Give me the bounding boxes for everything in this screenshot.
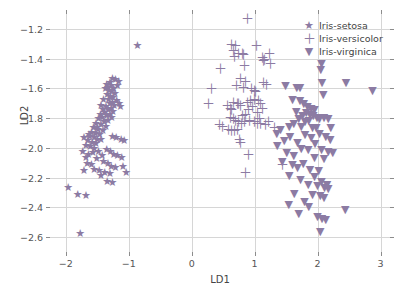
data-point-plus: ＋ bbox=[241, 12, 254, 25]
data-point-triangle-down: ▼ bbox=[272, 128, 280, 139]
data-point-plus: ＋ bbox=[263, 46, 276, 59]
legend-label: Iris-virginica bbox=[319, 46, 377, 57]
data-point-triangle-down: ▼ bbox=[322, 130, 330, 141]
data-point-plus: ＋ bbox=[237, 80, 250, 93]
data-point-triangle-down: ▼ bbox=[315, 165, 323, 176]
data-point-triangle-down: ▼ bbox=[297, 120, 305, 131]
y-axis-label: LD2 bbox=[19, 86, 30, 146]
gridline-horizontal bbox=[50, 178, 390, 179]
data-point-triangle-down: ▼ bbox=[299, 157, 307, 168]
data-point-plus: ＋ bbox=[262, 115, 275, 128]
data-point-star: ★ bbox=[107, 111, 117, 122]
data-point-star: ★ bbox=[87, 136, 97, 147]
data-point-triangle-down: ▼ bbox=[342, 77, 350, 88]
x-tick-label: −2 bbox=[59, 258, 73, 269]
data-point-plus: ＋ bbox=[249, 85, 262, 98]
data-point-star: ★ bbox=[85, 130, 95, 141]
data-point-star: ★ bbox=[133, 40, 143, 51]
data-point-star: ★ bbox=[73, 188, 83, 199]
data-point-star: ★ bbox=[98, 125, 108, 136]
y-tick-label: −2.6 bbox=[20, 232, 43, 243]
data-point-star: ★ bbox=[118, 160, 128, 171]
data-point-star: ★ bbox=[98, 104, 108, 115]
gridline-horizontal bbox=[50, 237, 390, 238]
data-point-plus: ＋ bbox=[225, 37, 238, 50]
data-point-star: ★ bbox=[93, 123, 103, 134]
y-tick-label: −1.4 bbox=[20, 53, 43, 64]
gridline-vertical bbox=[192, 14, 193, 252]
gridline-vertical bbox=[129, 14, 130, 252]
data-point-triangle-down: ▼ bbox=[293, 136, 301, 147]
data-point-triangle-down: ▼ bbox=[341, 203, 349, 214]
data-point-star: ★ bbox=[100, 166, 110, 177]
data-point-star: ★ bbox=[111, 74, 121, 85]
data-point-plus: ＋ bbox=[216, 119, 229, 132]
x-tick-label: 3 bbox=[378, 258, 384, 269]
data-point-star: ★ bbox=[114, 98, 124, 109]
data-point-star: ★ bbox=[97, 111, 107, 122]
y-tick-mark bbox=[390, 237, 394, 238]
y-tick-mark bbox=[46, 207, 50, 208]
data-point-plus: ＋ bbox=[276, 158, 289, 171]
y-tick-mark bbox=[46, 178, 50, 179]
legend-marker-icon: ★ bbox=[299, 20, 319, 31]
legend-marker-icon: ▼ bbox=[299, 46, 319, 57]
data-point-star: ★ bbox=[94, 165, 104, 176]
data-point-star: ★ bbox=[111, 132, 121, 143]
data-point-plus: ＋ bbox=[229, 113, 242, 126]
data-point-plus: ＋ bbox=[257, 54, 270, 67]
data-point-star: ★ bbox=[89, 132, 99, 143]
data-point-star: ★ bbox=[87, 159, 97, 170]
x-tick-label: 0 bbox=[189, 258, 195, 269]
data-point-star: ★ bbox=[84, 129, 94, 140]
data-point-triangle-down: ▼ bbox=[304, 178, 312, 189]
y-tick-mark bbox=[46, 88, 50, 89]
y-tick-mark bbox=[46, 59, 50, 60]
data-point-plus: ＋ bbox=[242, 103, 255, 116]
data-point-plus: ＋ bbox=[225, 103, 238, 116]
y-tick-label: −2.2 bbox=[20, 172, 43, 183]
scatter-plot-figure: −1.2−1.4−1.6−1.8−2.0−2.2−2.4−2.6−2−10123… bbox=[0, 0, 404, 302]
data-point-star: ★ bbox=[106, 102, 116, 113]
data-point-plus: ＋ bbox=[239, 165, 252, 178]
x-tick-mark bbox=[129, 10, 130, 14]
data-point-star: ★ bbox=[117, 151, 127, 162]
data-point-triangle-down: ▼ bbox=[326, 133, 334, 144]
x-tick-label: −1 bbox=[122, 258, 136, 269]
data-point-plus: ＋ bbox=[242, 147, 255, 160]
data-point-star: ★ bbox=[96, 133, 106, 144]
x-tick-label: 2 bbox=[315, 258, 321, 269]
x-tick-mark bbox=[318, 252, 319, 256]
data-point-star: ★ bbox=[108, 92, 118, 103]
data-point-plus: ＋ bbox=[232, 115, 245, 128]
data-point-plus: ＋ bbox=[230, 79, 243, 92]
legend-item-iris-virginica: ▼Iris-virginica bbox=[299, 45, 400, 58]
y-tick-mark bbox=[390, 178, 394, 179]
data-point-star: ★ bbox=[106, 90, 116, 101]
data-point-triangle-down: ▼ bbox=[296, 95, 304, 106]
data-point-triangle-down: ▼ bbox=[306, 163, 314, 174]
data-point-triangle-down: ▼ bbox=[303, 101, 311, 112]
data-point-plus: ＋ bbox=[233, 132, 246, 145]
gridline-horizontal bbox=[50, 118, 390, 119]
data-point-plus: ＋ bbox=[234, 98, 247, 111]
data-point-plus: ＋ bbox=[202, 97, 215, 110]
data-point-triangle-down: ▼ bbox=[305, 200, 313, 211]
data-point-star: ★ bbox=[90, 128, 100, 139]
data-point-plus: ＋ bbox=[256, 101, 269, 114]
data-point-star: ★ bbox=[96, 99, 106, 110]
data-point-star: ★ bbox=[97, 150, 107, 161]
legend-label: Iris-versicolor bbox=[319, 33, 383, 44]
data-point-star: ★ bbox=[87, 126, 97, 137]
y-tick-mark bbox=[46, 29, 50, 30]
data-point-triangle-down: ▼ bbox=[289, 150, 297, 161]
data-point-star: ★ bbox=[103, 104, 113, 115]
data-point-plus: ＋ bbox=[254, 97, 267, 110]
data-point-triangle-down: ▼ bbox=[302, 107, 310, 118]
data-point-star: ★ bbox=[92, 122, 102, 133]
data-point-plus: ＋ bbox=[236, 109, 249, 122]
data-point-star: ★ bbox=[83, 148, 93, 159]
data-point-plus: ＋ bbox=[234, 135, 247, 148]
data-point-star: ★ bbox=[99, 156, 109, 167]
data-point-plus: ＋ bbox=[224, 110, 237, 123]
